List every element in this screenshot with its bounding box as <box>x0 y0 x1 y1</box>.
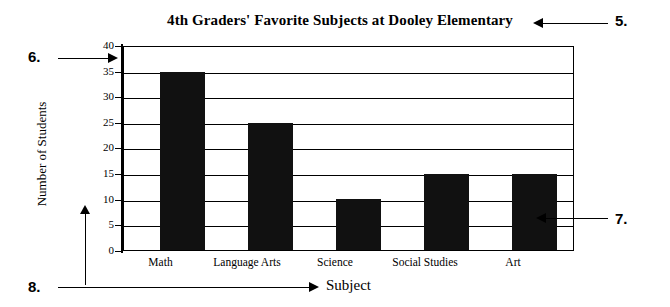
callout-6-arrow-head <box>108 53 118 63</box>
x-tick-label-art: Art <box>478 256 548 268</box>
x-axis-title: Subject <box>326 277 371 294</box>
y-tick-label-15: 15 <box>88 167 114 179</box>
chart-title: 4th Graders' Favorite Subjects at Dooley… <box>140 12 540 29</box>
callout-label-7: 7. <box>615 210 628 227</box>
y-tick-label-40: 40 <box>88 39 114 51</box>
y-tick-label-0: 0 <box>88 244 114 256</box>
callout-5-arrow-shaft <box>542 23 608 24</box>
callout-8-arrow-head <box>309 282 319 292</box>
callout-7-arrow-head <box>536 213 546 223</box>
y-tick-35 <box>115 72 122 73</box>
bar-social-studies <box>424 174 469 250</box>
callout-label-8: 8. <box>28 278 41 295</box>
bar-language-arts <box>248 123 293 250</box>
y-tick-5 <box>115 225 122 226</box>
y-tick-20 <box>115 148 122 149</box>
y-tick-label-10: 10 <box>88 193 114 205</box>
y-axis-title: Number of Students <box>34 79 50 229</box>
y-tick-25 <box>115 123 122 124</box>
callout-label-5: 5. <box>615 12 628 29</box>
x-tick-label-social-studies: Social Studies <box>375 256 475 268</box>
y-tick-label-5: 5 <box>88 218 114 230</box>
bar-art <box>512 174 557 250</box>
y-axis-title-arrow-shaft <box>85 213 86 285</box>
y-tick-label-25: 25 <box>88 116 114 128</box>
x-tick-label-science: Science <box>300 256 370 268</box>
callout-6-arrow-shaft <box>58 58 110 59</box>
x-tick-label-math: Math <box>118 256 203 268</box>
callout-label-6: 6. <box>28 48 41 65</box>
chart-figure: 4th Graders' Favorite Subjects at Dooley… <box>0 0 670 307</box>
y-tick-label-20: 20 <box>88 141 114 153</box>
bar-math <box>160 72 205 250</box>
y-tick-label-35: 35 <box>88 65 114 77</box>
bar-science <box>336 199 381 250</box>
callout-5-arrow-head <box>533 18 543 28</box>
x-tick-label-language-arts: Language Arts <box>198 256 296 268</box>
callout-8-arrow-shaft <box>58 287 311 288</box>
y-tick-15 <box>115 174 122 175</box>
y-tick-40 <box>115 46 122 47</box>
y-tick-10 <box>115 200 122 201</box>
callout-7-arrow-shaft <box>546 218 608 219</box>
plot-area <box>122 46 574 251</box>
y-tick-0 <box>115 251 122 252</box>
y-tick-label-30: 30 <box>88 90 114 102</box>
y-tick-30 <box>115 97 122 98</box>
